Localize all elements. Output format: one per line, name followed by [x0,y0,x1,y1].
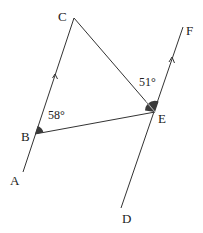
line-ac [23,18,74,172]
angle-b-value: 58° [48,108,65,122]
point-label-b: B [21,129,30,144]
segment-ce [74,18,155,112]
point-label-e: E [158,111,166,126]
point-label-c: C [58,9,67,24]
geometry-diagram: C B A F E D 58° 51° [0,0,203,233]
point-label-d: D [122,211,131,226]
angle-e-value: 51° [139,75,156,89]
point-label-f: F [186,23,193,38]
point-label-a: A [10,173,20,188]
line-df [121,27,183,208]
